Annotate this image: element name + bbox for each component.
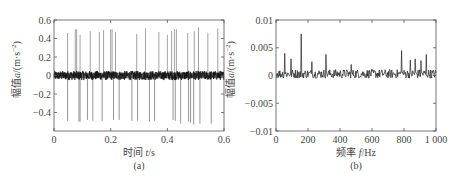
x-tick-label: 200 <box>301 134 316 145</box>
y-tick-label: 0.6 <box>39 15 52 26</box>
x-tick-label: 0 <box>274 134 279 145</box>
spectrum-line <box>276 34 436 78</box>
data-series <box>54 27 224 124</box>
y-tick-label: 0 <box>268 70 273 81</box>
noise-band <box>54 73 224 79</box>
y-tick-label: −0.005 <box>245 98 273 109</box>
panel-caption: (b) <box>350 160 362 172</box>
x-tick-label: 0.2 <box>104 134 117 145</box>
y-axis-label: 幅值a/(m·s−2) <box>224 41 237 98</box>
panel-b-frequency-spectrum-chart: 02004006008001 0000.010.0050−0.005−0.01频… <box>224 15 447 173</box>
x-tick-label: 0.4 <box>161 134 174 145</box>
x-tick-label: 0.6 <box>218 134 231 145</box>
figure: 00.20.40.60.60.40.20−0.2−0.4时间 t/s(a)幅值a… <box>0 0 464 184</box>
panel-a-time-domain-chart: 00.20.40.60.60.40.20−0.2−0.4时间 t/s(a)幅值a… <box>10 15 230 173</box>
x-tick-label: 1 000 <box>425 134 448 145</box>
y-tick-label: 0.2 <box>39 52 52 63</box>
y-tick-label: −0.01 <box>250 126 273 137</box>
x-tick-label: 400 <box>333 134 348 145</box>
panel-caption: (a) <box>133 160 144 172</box>
x-axis-label: 时间 t/s <box>123 146 155 158</box>
y-tick-label: 0.01 <box>256 15 274 26</box>
y-tick-label: 0.4 <box>39 33 52 44</box>
y-tick-label: −0.2 <box>33 89 51 100</box>
x-tick-label: 800 <box>397 134 412 145</box>
data-series <box>276 34 436 78</box>
y-tick-label: 0.005 <box>251 42 274 53</box>
y-axis-label: 幅值a/(m·s−2) <box>10 41 23 98</box>
y-tick-label: −0.4 <box>33 107 51 118</box>
y-tick-label: 0 <box>46 70 51 81</box>
x-axis-label: 频率 f/Hz <box>336 146 376 158</box>
x-tick-label: 0 <box>52 134 57 145</box>
x-tick-label: 600 <box>365 134 380 145</box>
axes: 02004006008001 0000.010.0050−0.005−0.01 <box>245 15 447 146</box>
